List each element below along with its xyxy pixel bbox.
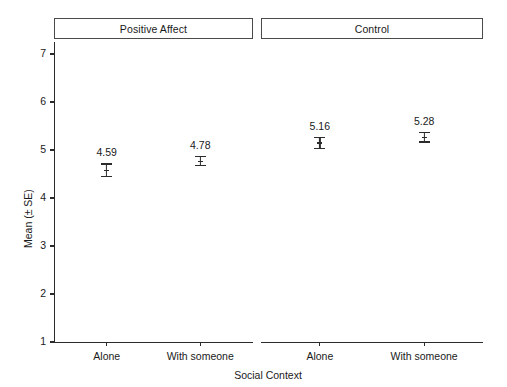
y-axis-tick [50,53,54,54]
data-point-marker [422,137,427,139]
panel-header-label: Positive Affect [120,23,187,35]
error-bar-cap-lower [101,176,112,177]
error-bar-cap-lower [419,141,430,142]
x-axis-tick-label: With someone [391,350,458,362]
x-axis-line-panel-1 [261,342,483,343]
x-axis-line-panel-0 [54,342,253,343]
x-axis-tick [200,342,201,346]
x-axis-tick-label: Alone [93,350,120,362]
x-axis-tick [106,342,107,346]
error-bar [195,156,206,165]
x-axis-tick [319,342,320,346]
y-axis-tick-label: 1 [28,335,46,347]
error-bar-cap-lower [314,148,325,149]
panel-header-label: Control [355,23,390,35]
y-axis-tick-label: 6 [28,95,46,107]
y-axis-tick-label: 7 [28,47,46,59]
y-axis-tick [50,293,54,294]
error-bar [314,137,325,148]
error-bar-cap-lower [195,165,206,166]
data-point-value-label: 4.59 [97,146,117,158]
y-axis-title: Mean (± SE) [22,189,34,248]
data-point-marker [198,161,203,163]
x-axis-title: Social Context [234,369,302,381]
error-bar [101,163,112,175]
error-bar-cap-upper [314,137,325,138]
x-axis-tick [424,342,425,346]
data-point-marker [317,142,322,144]
data-point-value-label: 5.16 [310,120,330,132]
chart-figure: Positive Affect Control 1234567 Mean (± … [0,0,507,387]
y-axis-tick-label: 2 [28,287,46,299]
x-axis-tick-label: With someone [167,350,234,362]
panel-header-positive-affect: Positive Affect [54,18,253,39]
data-point-marker [104,170,109,172]
error-bar-cap-upper [101,163,112,164]
y-axis-tick [50,149,54,150]
data-point-value-label: 5.28 [414,115,434,127]
data-point-value-label: 4.78 [190,139,210,151]
panel-header-control: Control [261,18,483,39]
x-axis-tick-label: Alone [306,350,333,362]
y-axis-line [54,42,55,342]
error-bar-cap-upper [195,156,206,157]
error-bar [419,132,430,142]
y-axis-tick [50,197,54,198]
y-axis-tick-label: 5 [28,143,46,155]
error-bar-cap-upper [419,132,430,133]
y-axis-tick [50,245,54,246]
y-axis-tick [50,101,54,102]
